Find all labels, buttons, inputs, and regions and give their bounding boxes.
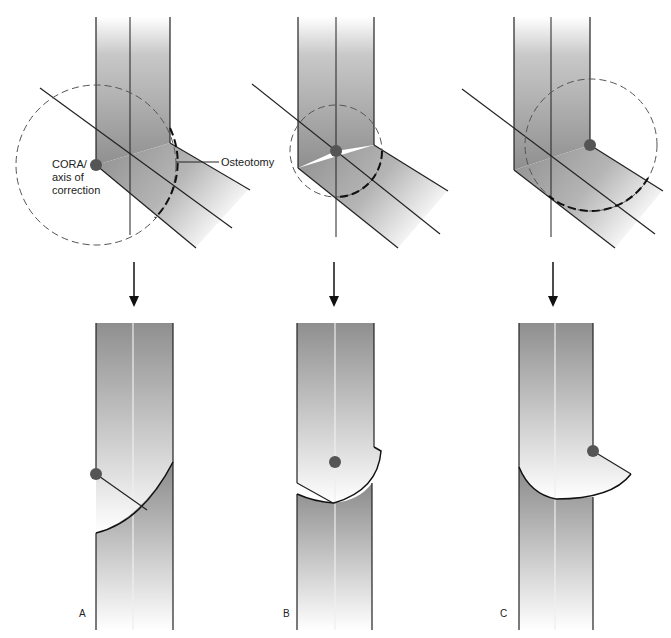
osteotomy-diagram: CORA/ axis of correction Osteotomy — [0, 0, 671, 638]
panel-c-before — [462, 17, 663, 248]
cora-dot — [330, 145, 342, 157]
panel-label-a: A — [79, 608, 86, 619]
arrow-down-icon — [548, 296, 558, 307]
panel-label-b: B — [283, 608, 290, 619]
panel-label-c: C — [500, 608, 507, 619]
panel-b-after: B — [283, 323, 381, 630]
panel-a-before: CORA/ axis of correction Osteotomy — [16, 17, 275, 248]
arrow-down-icon — [329, 296, 339, 307]
cora-dot — [90, 159, 102, 171]
panel-a-after: A — [79, 323, 173, 630]
cora-dot — [90, 468, 102, 480]
proximal-segment — [96, 17, 170, 165]
cora-dot — [587, 445, 599, 457]
panel-c-after: C — [500, 323, 631, 630]
panel-b-before — [252, 17, 448, 248]
arrow-down-icon — [129, 296, 139, 307]
cora-dot — [584, 139, 596, 151]
correction-arrows — [129, 262, 558, 307]
cora-dot — [329, 456, 341, 468]
osteotomy-label: Osteotomy — [221, 156, 275, 168]
